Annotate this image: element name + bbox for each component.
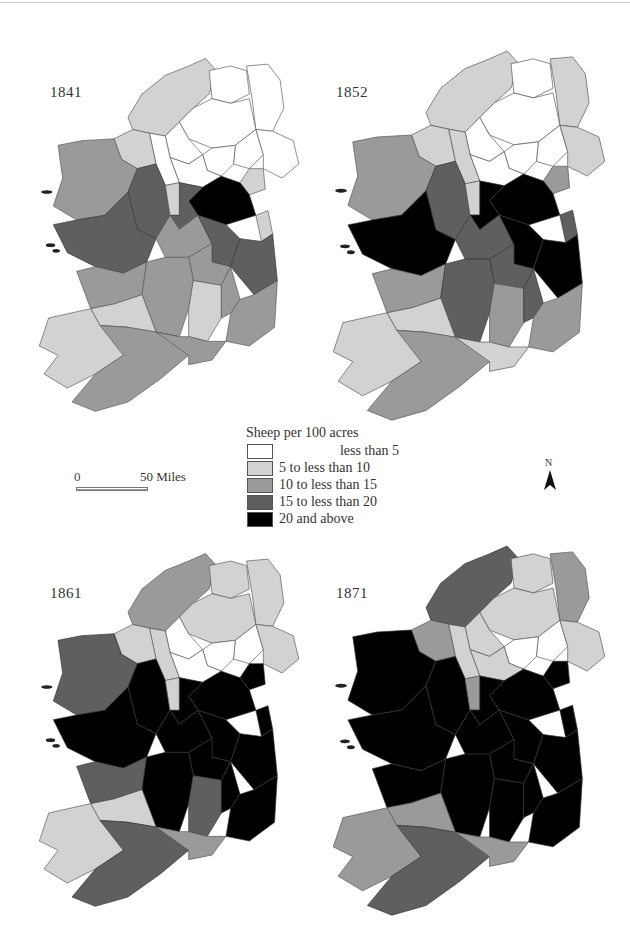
county-kilkenny (490, 778, 524, 841)
north-arrow: N (540, 457, 560, 497)
legend-item: less than 5 (246, 443, 416, 460)
island (340, 739, 350, 743)
legend-swatch (247, 495, 273, 510)
map-1841 (30, 10, 310, 430)
county-kilkenny (189, 776, 222, 837)
island (52, 744, 59, 748)
island (347, 745, 355, 749)
map-1871 (320, 505, 620, 925)
legend-swatch (247, 478, 273, 493)
island (52, 249, 59, 253)
county-map-1871 (320, 505, 620, 925)
island (46, 243, 55, 247)
legend-label: less than 5 (279, 443, 399, 459)
county-map-1852 (320, 10, 620, 430)
year-label-1871: 1871 (336, 585, 368, 602)
county-derry (511, 59, 553, 98)
scale-bar: 0 50 Miles (74, 469, 204, 499)
island (340, 244, 350, 248)
island (335, 189, 347, 193)
county-map-1861 (30, 505, 310, 925)
legend-swatch (247, 461, 273, 476)
island (46, 738, 55, 742)
island (335, 684, 347, 688)
top-rule (0, 2, 630, 3)
legend-label: 10 to less than 15 (279, 477, 409, 493)
scale-zero-label: 0 (74, 469, 81, 485)
year-label-1861: 1861 (50, 585, 82, 602)
county-map-1841 (30, 10, 310, 430)
island (41, 190, 52, 194)
island (347, 250, 355, 254)
legend-item: 10 to less than 15 (246, 477, 416, 494)
island (41, 685, 52, 689)
legend-label: 20 and above (279, 511, 409, 527)
legend-item: 15 to less than 20 (246, 494, 416, 511)
legend-item: 5 to less than 10 (246, 460, 416, 477)
legend: Sheep per 100 acres less than 5 5 to les… (246, 425, 416, 528)
scale-max-label: 50 Miles (140, 469, 186, 485)
county-kilkenny (189, 281, 222, 342)
legend-title: Sheep per 100 acres (246, 425, 416, 441)
year-label-1852: 1852 (336, 84, 368, 101)
legend-swatch (247, 444, 273, 459)
county-derry (511, 554, 553, 593)
legend-swatch (247, 512, 273, 527)
county-kilkenny (490, 283, 524, 346)
scale-bar-graphic (76, 487, 148, 491)
legend-label: 15 to less than 20 (279, 494, 409, 510)
legend-item: 20 and above (246, 511, 416, 528)
county-derry (209, 561, 249, 598)
north-arrow-icon (540, 457, 560, 497)
county-derry (209, 66, 249, 103)
map-1861 (30, 505, 310, 925)
map-1852 (320, 10, 620, 430)
legend-label: 5 to less than 10 (279, 460, 409, 476)
year-label-1841: 1841 (50, 84, 82, 101)
